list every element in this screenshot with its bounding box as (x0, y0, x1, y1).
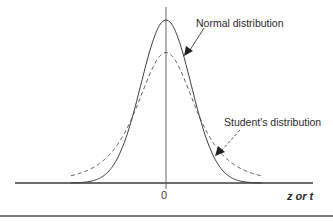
x-axis-label: z or t (286, 190, 315, 202)
student-arrow-head-icon (215, 146, 225, 156)
normal-arrow-line (190, 28, 204, 50)
x-tick-zero: 0 (161, 189, 167, 201)
student-arrow-line (222, 130, 240, 150)
bottom-divider (0, 215, 333, 217)
student-distribution-label: Student's distribution (224, 116, 321, 128)
normal-distribution-label: Normal distribution (196, 17, 284, 29)
distribution-chart: Normal distribution Student's distributi… (0, 0, 333, 222)
